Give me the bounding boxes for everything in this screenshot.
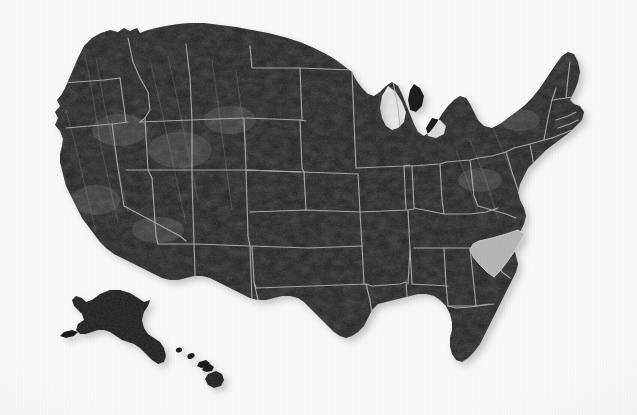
us-relief-map-figure	[0, 0, 637, 415]
map-svg[interactable]	[0, 0, 637, 415]
map-canvas[interactable]	[0, 0, 637, 415]
